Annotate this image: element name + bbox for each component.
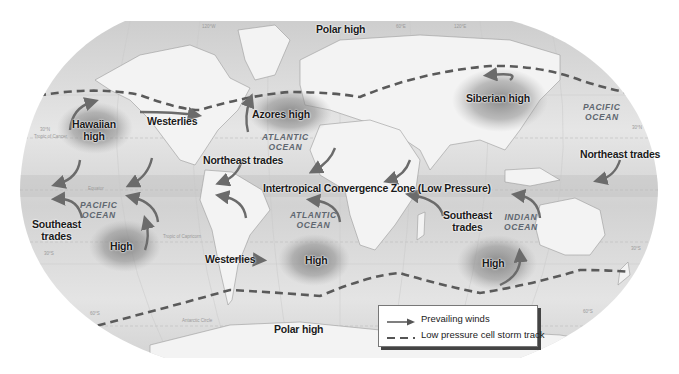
equator-label: Equator	[88, 186, 104, 191]
southeast-trades-indian-label: Southeast trades	[443, 209, 492, 233]
pacific-ocean-east-label: PACIFIC OCEAN	[583, 102, 621, 122]
prevailing-wind-arrow-icon	[385, 313, 417, 323]
southeast-trades-pacific-line1: Southeast	[32, 218, 81, 230]
legend-label: Prevailing winds	[421, 313, 490, 324]
atlantic-north-line2: OCEAN	[262, 142, 309, 152]
world-map: 30°N Tropic of Cancer Equator Tropic of …	[0, 0, 679, 374]
pacific-west-line1: PACIFIC	[80, 200, 118, 210]
indian-line1: INDIAN	[504, 212, 538, 222]
southeast-trades-indian-line2: trades	[443, 221, 492, 233]
lon-120e-label: 120°E	[454, 24, 466, 29]
south-atlantic-high-label: High	[305, 254, 328, 266]
lat-60s-right-label: 60°S	[583, 309, 593, 314]
atlantic-ocean-south-label: ATLANTIC OCEAN	[290, 210, 337, 230]
lat-30s-right-label: 30°S	[631, 246, 641, 251]
azores-high-label: Azores high	[252, 108, 310, 120]
lat-30n-left-label: 30°N	[40, 127, 50, 132]
polar-high-north-label: Polar high	[316, 23, 365, 35]
hawaiian-high-line2: high	[72, 130, 116, 142]
northeast-trades-atlantic-label: Northeast trades	[203, 154, 283, 166]
legend-label: Low pressure cell storm track	[421, 329, 545, 340]
tropic-of-cancer-label: Tropic of Cancer	[34, 134, 67, 139]
atlantic-south-line1: ATLANTIC	[290, 210, 337, 220]
pacific-ocean-west-label: PACIFIC OCEAN	[80, 200, 118, 220]
itcz-label: Intertropical Convergence Zone (Low Pres…	[263, 182, 491, 194]
lat-60s-left-label: 60°S	[90, 311, 100, 316]
hawaiian-high-line1: Hawaiian	[72, 118, 116, 130]
indian-line2: OCEAN	[504, 222, 538, 232]
pacific-east-line1: PACIFIC	[583, 102, 621, 112]
lon-60e-label: 60°E	[396, 24, 406, 29]
westerlies-south-label: Westerlies	[205, 253, 255, 265]
northeast-trades-pacific-label: Northeast trades	[580, 148, 660, 160]
legend-item-prevailing-winds: Prevailing winds	[385, 311, 490, 325]
pacific-east-line2: OCEAN	[583, 112, 621, 122]
south-pacific-high-label: High	[110, 240, 133, 252]
southeast-trades-indian-line1: Southeast	[443, 209, 492, 221]
indian-ocean-label: INDIAN OCEAN	[504, 212, 538, 232]
atlantic-south-line2: OCEAN	[290, 220, 337, 230]
southeast-trades-pacific-label: Southeast trades	[32, 218, 81, 242]
dashed-line-icon	[385, 329, 417, 339]
lon-120w-label: 120°W	[202, 24, 216, 29]
map-legend: Prevailing winds Low pressure cell storm…	[378, 305, 538, 347]
westerlies-north-label: Westerlies	[147, 115, 197, 127]
atlantic-north-line1: ATLANTIC	[262, 132, 309, 142]
lat-30n-right-label: 30°N	[632, 125, 642, 130]
tropic-of-capricorn-label: Tropic of Capricorn	[163, 234, 201, 239]
hawaiian-high-label: Hawaiian high	[72, 118, 116, 142]
atlantic-ocean-north-label: ATLANTIC OCEAN	[262, 132, 309, 152]
lat-30s-left-label: 30°S	[44, 251, 54, 256]
pacific-west-line2: OCEAN	[80, 210, 118, 220]
antarctic-circle-label: Antarctic Circle	[182, 318, 212, 323]
siberian-high-label: Siberian high	[466, 92, 530, 104]
legend-item-storm-track: Low pressure cell storm track	[385, 327, 545, 341]
southeast-trades-pacific-line2: trades	[32, 230, 81, 242]
indian-ocean-high-label: High	[482, 257, 505, 269]
polar-high-south-label: Polar high	[274, 323, 323, 335]
